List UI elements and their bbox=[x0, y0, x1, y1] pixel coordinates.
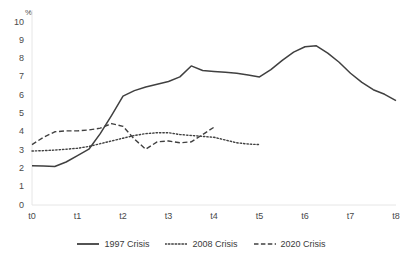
legend-item-label: 2020 Crisis bbox=[281, 239, 326, 249]
series-lines bbox=[32, 46, 396, 167]
legend-swatch-solid-icon bbox=[77, 240, 99, 248]
legend-item-label: 2008 Crisis bbox=[192, 239, 237, 249]
plot-area bbox=[0, 0, 403, 257]
axis-lines bbox=[32, 10, 396, 205]
legend-item[interactable]: 2008 Crisis bbox=[165, 239, 237, 249]
legend-item[interactable]: 1997 Crisis bbox=[77, 239, 149, 249]
series-line bbox=[32, 124, 214, 150]
legend-swatch-dashed-icon bbox=[254, 240, 276, 248]
legend-item[interactable]: 2020 Crisis bbox=[254, 239, 326, 249]
chart-legend: 1997 Crisis2008 Crisis2020 Crisis bbox=[0, 235, 403, 253]
legend-swatch-dotted-icon bbox=[165, 240, 187, 248]
line-chart: % 109876543210 t0t1t2t3t4t5t6t7t8 1997 C… bbox=[0, 0, 403, 257]
series-line bbox=[32, 46, 396, 167]
legend-item-label: 1997 Crisis bbox=[104, 239, 149, 249]
series-line bbox=[32, 133, 260, 151]
